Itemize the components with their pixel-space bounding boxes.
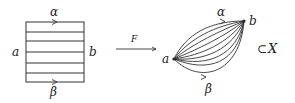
square-left-label: a: [12, 45, 19, 59]
parameter-square: [26, 22, 84, 82]
square-right-label: b: [89, 45, 97, 59]
homotopy-diagram: α β a b F a b α β ⊂ X: [0, 0, 295, 103]
homotopy-paths: [174, 21, 244, 72]
square-top-label: α: [50, 5, 58, 19]
point-a: [172, 57, 175, 60]
diagram-canvas: α β a b F a b α β ⊂ X: [0, 0, 295, 103]
image-beta-label: β: [204, 82, 212, 96]
space-label: X: [267, 41, 278, 56]
subset-symbol: ⊂: [257, 42, 267, 56]
image-alpha-label: α: [217, 5, 225, 19]
image-point-a-label: a: [162, 52, 169, 66]
image-point-b-label: b: [249, 14, 257, 28]
square-bottom-label: β: [49, 85, 57, 99]
map-label: F: [130, 34, 138, 44]
beta-path-arrow-icon: [201, 75, 206, 80]
alpha-path-arrow-icon: [220, 19, 225, 24]
point-b: [242, 19, 245, 22]
